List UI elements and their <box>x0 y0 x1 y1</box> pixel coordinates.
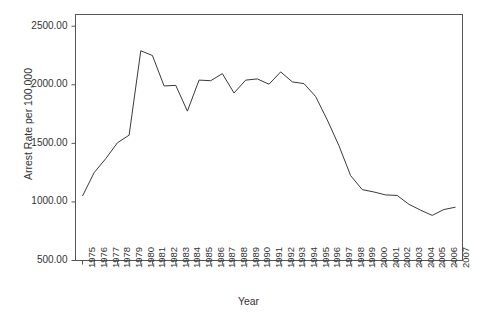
plot-frame <box>76 15 463 261</box>
x-tick-label: 1977 <box>110 246 121 267</box>
x-tick-label: 2003 <box>413 246 424 267</box>
x-tick-label: 1983 <box>180 246 191 267</box>
x-tick-label: 1979 <box>133 246 144 267</box>
x-tick-label: 2002 <box>401 246 412 267</box>
axis-ticks <box>72 26 456 264</box>
x-tick-label: 1998 <box>355 246 366 267</box>
x-tick-label: 1988 <box>238 246 249 267</box>
x-tick-label: 1980 <box>145 246 156 267</box>
x-axis-title: Year <box>0 295 497 307</box>
x-tick-label: 2004 <box>425 246 436 267</box>
x-tick-label: 2000 <box>378 246 389 267</box>
series-line-arrest-rate <box>82 51 455 216</box>
y-tick-label: 1500.00 <box>12 137 68 148</box>
x-tick-label: 1997 <box>343 246 354 267</box>
x-tick-label: 1994 <box>308 246 319 267</box>
x-tick-label: 1987 <box>226 246 237 267</box>
chart-figure: Arrest Rate per 100,000 Year 2500.002000… <box>0 0 497 319</box>
x-tick-label: 1984 <box>191 246 202 267</box>
x-tick-label: 1976 <box>98 246 109 267</box>
y-tick-label: 500.00 <box>12 254 68 265</box>
x-tick-label: 1986 <box>215 246 226 267</box>
x-tick-label: 1991 <box>273 246 284 267</box>
x-tick-label: 1982 <box>168 246 179 267</box>
x-tick-label: 1996 <box>331 246 342 267</box>
x-tick-label: 1981 <box>156 246 167 267</box>
x-tick-label: 1993 <box>296 246 307 267</box>
y-tick-label: 1000.00 <box>12 195 68 206</box>
x-tick-label: 1985 <box>203 246 214 267</box>
x-tick-label: 1990 <box>261 246 272 267</box>
x-tick-label: 2007 <box>460 246 471 267</box>
x-tick-label: 1992 <box>285 246 296 267</box>
y-tick-label: 2000.00 <box>12 78 68 89</box>
line-chart-plot <box>0 0 497 319</box>
y-tick-label: 2500.00 <box>12 20 68 31</box>
x-tick-label: 1989 <box>250 246 261 267</box>
x-tick-label: 1975 <box>86 246 97 267</box>
x-tick-label: 2005 <box>436 246 447 267</box>
x-tick-label: 1999 <box>366 246 377 267</box>
x-tick-label: 2001 <box>390 246 401 267</box>
x-tick-label: 2006 <box>448 246 459 267</box>
x-tick-label: 1995 <box>320 246 331 267</box>
x-tick-label: 1978 <box>121 246 132 267</box>
y-axis-title: Arrest Rate per 100,000 <box>22 34 34 214</box>
